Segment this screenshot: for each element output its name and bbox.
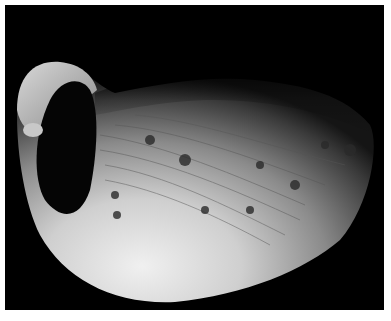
photo-frame	[5, 5, 384, 310]
moon-illustration	[5, 5, 384, 310]
